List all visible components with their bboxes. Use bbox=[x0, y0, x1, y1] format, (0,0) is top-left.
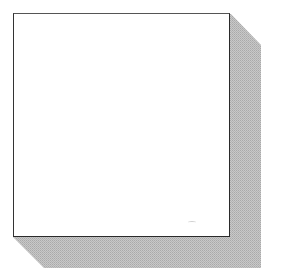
faint-mark bbox=[188, 221, 196, 224]
figure bbox=[0, 0, 289, 280]
blank-square bbox=[13, 13, 230, 237]
